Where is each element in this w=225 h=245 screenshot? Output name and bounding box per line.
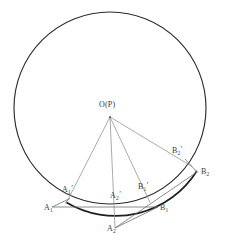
label-B2-base: B bbox=[201, 167, 207, 176]
label-B1-prime: B1′ bbox=[138, 183, 148, 191]
label-B2p-base: B bbox=[172, 146, 178, 155]
prime-mark-icon: ′ bbox=[181, 145, 183, 154]
label-B2-sub: 2 bbox=[207, 171, 210, 177]
label-B2-prime: B2′ bbox=[172, 147, 182, 155]
label-A1-prime: A1′ bbox=[62, 186, 73, 194]
label-A2-sub: 2 bbox=[113, 228, 116, 234]
label-A1-sub: 1 bbox=[50, 207, 53, 213]
geometry-figure: O(P) A1 A1′ A2 A2′ B1 B1′ B2 B2′ bbox=[0, 0, 225, 245]
prime-mark-icon: ′ bbox=[147, 181, 149, 190]
prime-mark-icon: ′ bbox=[71, 184, 73, 193]
label-B1p-base: B bbox=[138, 182, 144, 191]
label-A2-prime: A2′ bbox=[110, 192, 121, 200]
segment-A2-B1 bbox=[115, 207, 158, 228]
label-center-O: O(P) bbox=[99, 101, 115, 109]
segment-group bbox=[52, 159, 198, 228]
label-A2: A2 bbox=[107, 225, 116, 233]
ray-O-A2 bbox=[110, 117, 115, 228]
label-B1-sub: 1 bbox=[166, 207, 169, 213]
prime-mark-icon: ′ bbox=[119, 190, 121, 199]
figure-canvas bbox=[0, 0, 225, 245]
segment-A2-B2 bbox=[115, 172, 197, 228]
label-A1: A1 bbox=[44, 204, 53, 212]
label-B2: B2 bbox=[201, 168, 210, 176]
label-B1: B1 bbox=[160, 204, 169, 212]
label-B1-base: B bbox=[160, 203, 166, 212]
tangent-arc bbox=[67, 172, 197, 216]
ray-O-B2p bbox=[110, 117, 192, 167]
center-point-dot bbox=[109, 116, 111, 118]
